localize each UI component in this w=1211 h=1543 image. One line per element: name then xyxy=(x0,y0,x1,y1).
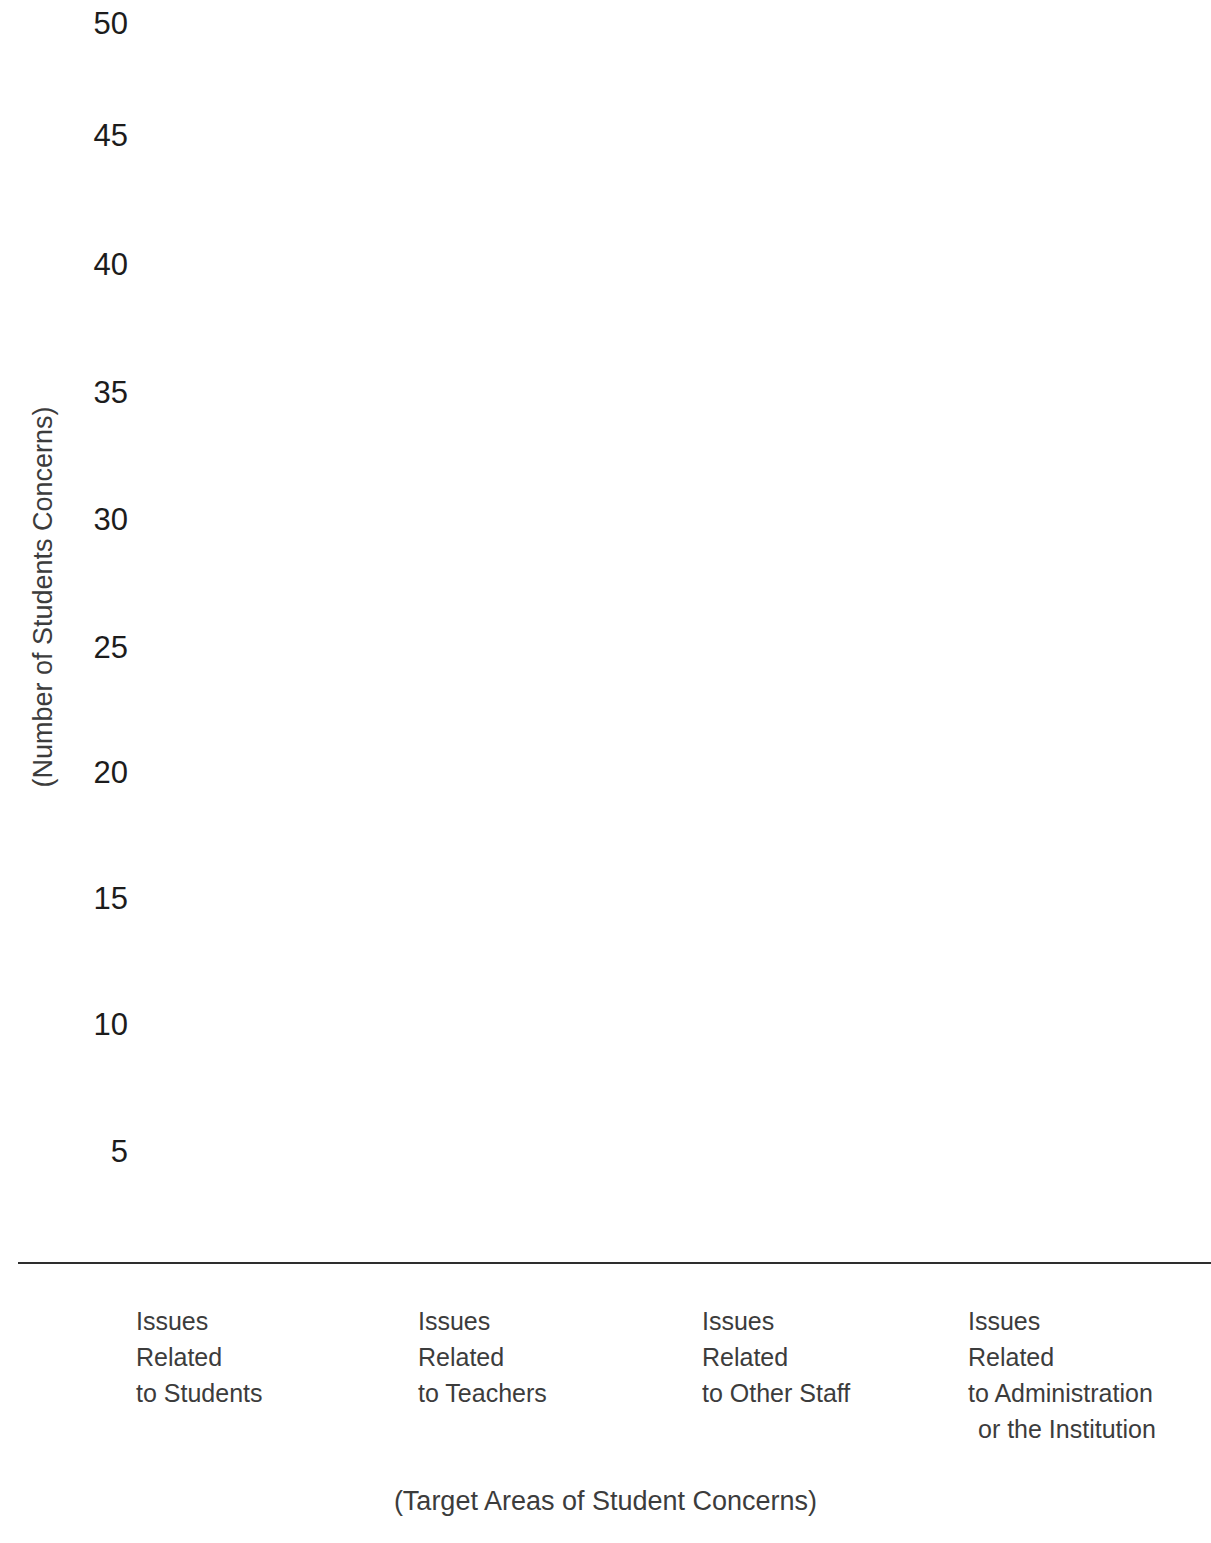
x-axis-category-line: to Teachers xyxy=(418,1375,547,1411)
x-axis-category-line: Related xyxy=(968,1339,1156,1375)
x-axis-category-label-administration: Issues Related to Administration or the … xyxy=(968,1303,1156,1447)
x-axis-category-label-students: Issues Related to Students xyxy=(136,1303,262,1411)
x-axis-category-line: Issues xyxy=(968,1303,1156,1339)
y-axis-tick-40: 40 xyxy=(8,249,128,280)
y-axis-tick-50: 50 xyxy=(8,8,128,39)
x-axis-title: (Target Areas of Student Concerns) xyxy=(0,1484,1211,1518)
y-axis-tick-25: 25 xyxy=(8,632,128,663)
x-axis-category-line: Issues xyxy=(702,1303,850,1339)
x-axis-category-line: Related xyxy=(418,1339,547,1375)
x-axis-category-label-other-staff: Issues Related to Other Staff xyxy=(702,1303,850,1411)
x-axis-line xyxy=(18,1262,1211,1264)
y-axis-tick-5: 5 xyxy=(8,1136,128,1167)
x-axis-category-label-teachers: Issues Related to Teachers xyxy=(418,1303,547,1411)
x-axis-category-line: Related xyxy=(702,1339,850,1375)
y-axis-tick-20: 20 xyxy=(8,757,128,788)
x-axis-category-line: to Students xyxy=(136,1375,262,1411)
y-axis-tick-30: 30 xyxy=(8,504,128,535)
x-axis-category-line: Issues xyxy=(418,1303,547,1339)
y-axis-tick-15: 15 xyxy=(8,883,128,914)
y-axis-tick-35: 35 xyxy=(8,377,128,408)
y-axis-title: (Number of Students Concerns) xyxy=(28,377,58,817)
bar-chart-figure: (Number of Students Concerns) 50 45 40 3… xyxy=(0,0,1211,1543)
x-axis-category-line: Issues xyxy=(136,1303,262,1339)
y-axis-tick-45: 45 xyxy=(8,120,128,151)
y-axis-tick-10: 10 xyxy=(8,1009,128,1040)
plot-area xyxy=(130,10,1205,1260)
x-axis-category-line: to Administration xyxy=(968,1375,1156,1411)
x-axis-category-line: to Other Staff xyxy=(702,1375,850,1411)
x-axis-category-line: Related xyxy=(136,1339,262,1375)
x-axis-category-line: or the Institution xyxy=(968,1411,1156,1447)
